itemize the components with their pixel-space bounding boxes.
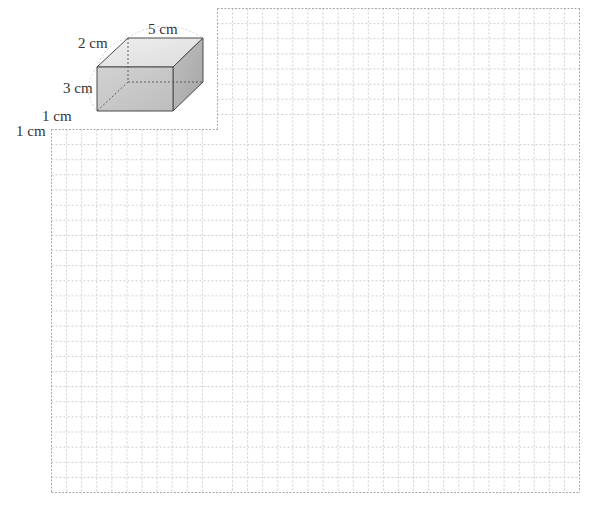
- width-label: 2 cm: [78, 36, 108, 51]
- length-label: 5 cm: [148, 22, 178, 37]
- grid-unit-label-vertical: 1 cm: [16, 124, 46, 139]
- figure: 5 cm 2 cm 3 cm 1 cm 1 cm: [0, 0, 598, 505]
- cuboid-illustration: [0, 0, 598, 505]
- height-label: 3 cm: [63, 81, 93, 96]
- cuboid-front-face: [97, 67, 173, 111]
- grid-unit-label-horizontal: 1 cm: [42, 109, 72, 124]
